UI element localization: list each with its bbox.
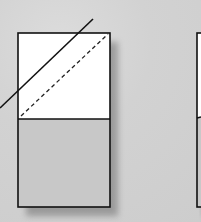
left-box-bottom bbox=[18, 119, 110, 207]
diagram-canvas bbox=[0, 0, 201, 222]
diagram-svg bbox=[0, 0, 201, 222]
right-box-divider bbox=[197, 117, 201, 118]
